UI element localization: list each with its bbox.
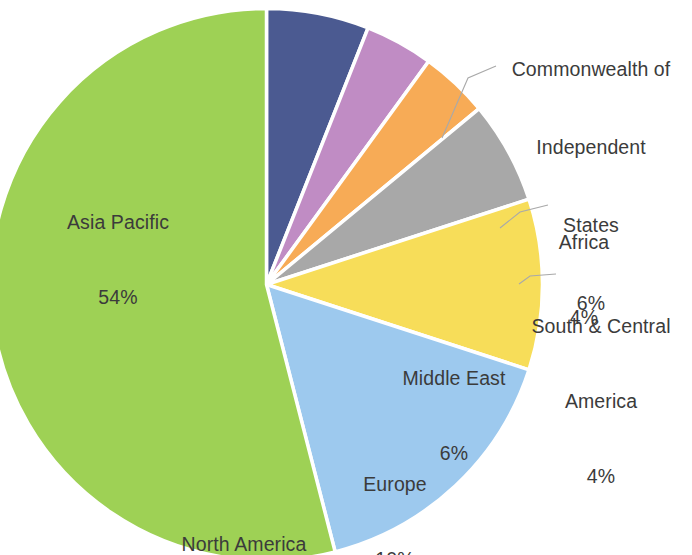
slice-label-south-central-america: South & Central America 4%: [512, 264, 690, 539]
slice-label-south-central-america-line2: America: [512, 389, 690, 414]
slice-label-south-central-america-line1: South & Central: [512, 314, 690, 339]
slice-label-asia-pacific-name: Asia Pacific: [18, 210, 218, 235]
slice-label-asia-pacific: Asia Pacific 54%: [18, 160, 218, 360]
slice-label-south-central-america-value: 4%: [512, 464, 690, 489]
pie-chart: Asia Pacific 54% North America 16% Europ…: [0, 0, 692, 555]
slice-label-europe-value: 10%: [320, 547, 470, 555]
slice-label-cis-line2: Independent: [492, 134, 690, 160]
slice-label-africa-name: Africa: [524, 230, 644, 255]
slice-label-middle-east-name: Middle East: [374, 366, 534, 391]
slice-label-north-america-name: North America: [144, 532, 344, 555]
slice-label-north-america: North America 16%: [144, 482, 344, 555]
slice-label-cis-line1: Commonwealth of: [492, 56, 690, 82]
slice-label-asia-pacific-value: 54%: [18, 285, 218, 310]
slice-label-middle-east-value: 6%: [374, 441, 534, 466]
